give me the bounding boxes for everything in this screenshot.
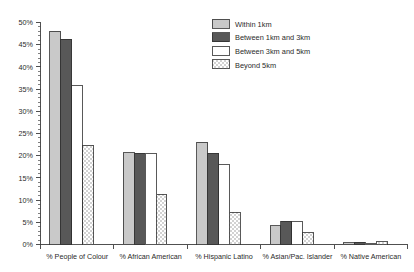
y-axis-tick-label: 45% [19, 40, 34, 49]
bar-5-3 [365, 243, 376, 244]
x-axis-category-label: % People of Colour [46, 252, 109, 261]
bar-3-1 [197, 142, 208, 244]
bar-4-4 [303, 233, 314, 245]
bar-1-2 [61, 39, 72, 244]
y-axis-tick-label: 15% [19, 174, 34, 183]
bar-1-4 [83, 145, 94, 244]
bar-3-4 [229, 212, 240, 244]
y-axis-tick-label: 20% [19, 151, 34, 160]
y-axis-tick-label: 0% [23, 240, 34, 249]
legend-label-4: Beyond 5km [235, 61, 276, 70]
legend-swatch-2 [212, 33, 229, 42]
x-axis-category-label: % African American [119, 252, 181, 261]
x-axis-category-label: % Asian/Pac. Islander [262, 252, 333, 261]
bar-5-1 [343, 243, 354, 245]
x-axis-category-label: % Native American [340, 252, 401, 261]
y-axis-tick-label: 30% [19, 107, 34, 116]
legend-label-2: Between 1km and 3km [235, 33, 310, 42]
bar-4-3 [292, 222, 303, 245]
bar-2-2 [134, 153, 145, 244]
bar-2-1 [123, 153, 134, 245]
bar-2-3 [145, 153, 156, 244]
bar-5-4 [376, 242, 387, 245]
bar-2-4 [156, 194, 167, 244]
x-axis-category-label: % Hispanic Latino [195, 252, 253, 261]
bar-1-1 [50, 31, 61, 244]
y-axis-tick-label: 50% [19, 18, 34, 27]
legend-label-3: Between 3km and 5km [235, 47, 310, 56]
bar-5-2 [354, 242, 365, 244]
legend-swatch-4 [212, 60, 229, 69]
y-axis-tick-label: 10% [19, 196, 34, 205]
legend-swatch-1 [212, 19, 229, 28]
bar-1-3 [72, 86, 83, 245]
y-axis-tick-label: 25% [19, 129, 34, 138]
legend-label-1: Within 1km [235, 20, 272, 29]
bar-4-1 [270, 226, 281, 245]
y-axis-tick-label: 40% [19, 63, 34, 72]
bar-3-2 [208, 153, 219, 244]
y-axis-tick-label: 5% [23, 218, 34, 227]
bar-3-3 [219, 165, 230, 245]
chart-canvas: 0%5%10%15%20%25%30%35%40%45%50% % People… [0, 0, 414, 272]
bar-4-2 [281, 221, 292, 244]
legend-swatch-3 [212, 46, 229, 55]
y-axis-tick-label: 35% [19, 85, 34, 94]
bar-chart: 0%5%10%15%20%25%30%35%40%45%50% % People… [0, 0, 414, 272]
